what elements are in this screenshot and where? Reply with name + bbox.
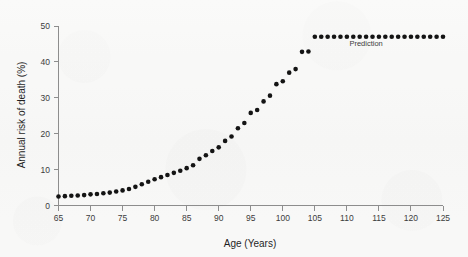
data-point (82, 193, 87, 198)
data-point (191, 163, 196, 168)
observed-data-points (56, 49, 311, 199)
prediction-point (409, 34, 414, 39)
chart-figure: Annual risk of death (%) Age (Years) 010… (0, 0, 468, 257)
data-point (69, 194, 74, 199)
prediction-point (396, 34, 401, 39)
data-point (101, 191, 106, 196)
data-point (255, 108, 260, 113)
data-point (184, 166, 189, 171)
prediction-point (325, 34, 330, 39)
x-tick-label: 120 (404, 213, 418, 223)
data-point (172, 171, 177, 176)
data-point (300, 50, 305, 55)
prediction-point (428, 34, 433, 39)
data-point (236, 126, 241, 131)
x-tick-label: 110 (340, 213, 354, 223)
data-point (152, 177, 157, 182)
x-tick-label: 70 (86, 213, 96, 223)
prediction-point (383, 34, 388, 39)
data-point (293, 67, 298, 72)
data-point (242, 121, 247, 126)
x-axis-ticks: 65707580859095100105110115120125 (54, 206, 451, 224)
data-point (280, 79, 285, 84)
prediction-point (434, 34, 439, 39)
x-axis-title: Age (Years) (224, 238, 276, 249)
data-point (197, 157, 202, 162)
x-tick-label: 105 (308, 213, 322, 223)
scatter-plot: Annual risk of death (%) Age (Years) 010… (0, 0, 468, 257)
data-point (178, 168, 183, 173)
x-tick-label: 75 (118, 213, 128, 223)
prediction-point (389, 34, 394, 39)
prediction-point (319, 34, 324, 39)
data-point (140, 182, 145, 187)
x-tick-label: 125 (436, 213, 450, 223)
data-point (165, 173, 170, 178)
data-point (261, 99, 266, 104)
data-point (88, 192, 93, 197)
data-point (95, 192, 100, 197)
data-point (223, 139, 228, 144)
prediction-point (415, 34, 420, 39)
data-point (229, 134, 234, 139)
y-tick-label: 10 (41, 165, 51, 175)
y-axis-title: Annual risk of death (%) (16, 62, 27, 169)
y-tick-label: 20 (41, 129, 51, 139)
prediction-point (338, 34, 343, 39)
data-point (210, 149, 215, 154)
prediction-point (421, 34, 426, 39)
data-point (75, 193, 80, 198)
data-point (127, 187, 132, 192)
data-point (204, 153, 209, 158)
x-tick-label: 65 (54, 213, 64, 223)
data-point (56, 194, 61, 199)
data-point (287, 70, 292, 75)
data-point (107, 190, 112, 195)
data-point (248, 111, 253, 116)
x-tick-label: 115 (372, 213, 386, 223)
y-tick-label: 40 (41, 57, 51, 67)
data-point (63, 194, 68, 199)
data-point (146, 180, 151, 185)
chart-annotations: Prediction (349, 39, 382, 48)
data-point (159, 175, 164, 180)
y-tick-label: 50 (41, 21, 51, 31)
y-tick-label: 0 (45, 201, 50, 211)
x-tick-label: 100 (276, 213, 290, 223)
data-point (114, 189, 119, 194)
data-point (268, 93, 273, 98)
x-tick-label: 90 (214, 213, 224, 223)
data-point (133, 185, 138, 190)
x-tick-label: 85 (182, 213, 192, 223)
prediction-point (332, 34, 337, 39)
prediction-point (313, 34, 318, 39)
y-tick-label: 30 (41, 93, 51, 103)
data-point (120, 188, 125, 193)
prediction-point (402, 34, 407, 39)
data-point (216, 145, 221, 150)
y-axis-ticks: 01020304050 (41, 21, 59, 211)
prediction-annotation-label: Prediction (349, 39, 382, 48)
data-point (274, 82, 279, 87)
prediction-point (441, 34, 446, 39)
x-tick-label: 80 (150, 213, 160, 223)
data-point (306, 49, 311, 54)
x-tick-label: 95 (246, 213, 256, 223)
